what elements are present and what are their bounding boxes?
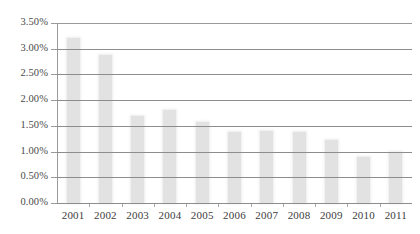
gridline <box>57 203 412 204</box>
gridline <box>57 126 412 127</box>
x-axis-tick <box>315 204 316 207</box>
y-axis-label: 1.00% <box>0 145 48 156</box>
bar <box>196 122 209 203</box>
y-axis-label: 1.50% <box>0 119 48 130</box>
x-axis-tick <box>251 204 252 207</box>
y-axis-label: 2.00% <box>0 93 48 104</box>
gridline <box>57 49 412 50</box>
bar <box>163 110 176 203</box>
gridline <box>57 100 412 101</box>
x-axis-tick <box>218 204 219 207</box>
plot-area <box>57 23 412 203</box>
x-axis-tick <box>89 204 90 207</box>
gridline <box>57 152 412 153</box>
x-axis-tick <box>154 204 155 207</box>
x-axis-tick <box>347 204 348 207</box>
bar <box>357 157 370 203</box>
x-axis-tick <box>380 204 381 207</box>
x-axis-tick <box>186 204 187 207</box>
y-axis-label: 3.50% <box>0 16 48 27</box>
y-axis-label: 0.00% <box>0 196 48 207</box>
bar <box>99 55 112 203</box>
gridline <box>57 74 412 75</box>
x-axis-label: 2011 <box>374 209 418 221</box>
gridline <box>57 177 412 178</box>
bar <box>293 132 306 203</box>
x-axis-tick <box>283 204 284 207</box>
bar <box>131 116 144 203</box>
bar <box>325 140 338 203</box>
y-axis-label: 2.50% <box>0 67 48 78</box>
bar <box>260 131 273 203</box>
gridline <box>57 23 412 24</box>
y-axis-label: 3.00% <box>0 42 48 53</box>
bar <box>67 38 80 203</box>
bar <box>228 132 241 203</box>
x-axis-tick <box>122 204 123 207</box>
bar-chart: 0.00%0.50%1.00%1.50%2.00%2.50%3.00%3.50%… <box>0 0 420 234</box>
y-axis-label: 0.50% <box>0 170 48 181</box>
